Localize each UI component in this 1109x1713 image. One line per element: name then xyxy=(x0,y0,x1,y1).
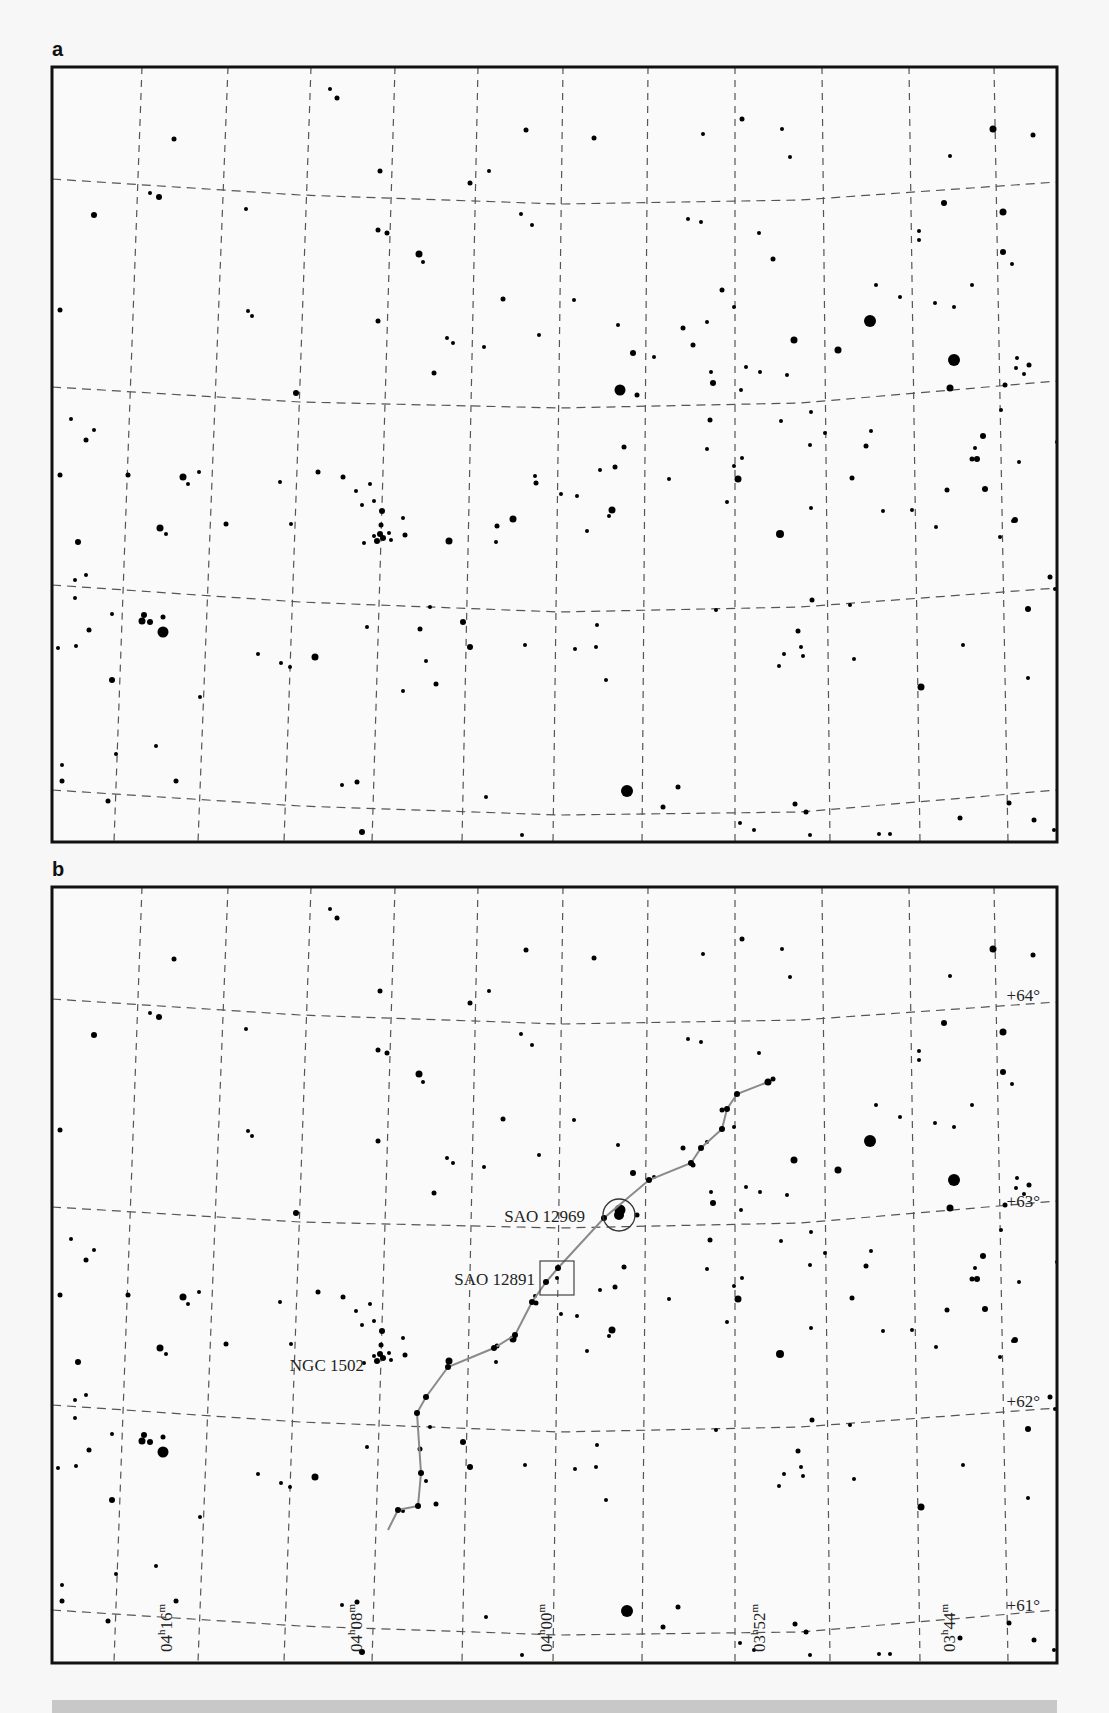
star xyxy=(917,238,921,242)
star xyxy=(374,538,380,544)
star xyxy=(808,443,812,447)
star xyxy=(1022,372,1026,376)
star xyxy=(484,795,488,799)
star xyxy=(250,1134,254,1138)
star xyxy=(534,481,539,486)
star xyxy=(1010,1082,1014,1086)
star xyxy=(164,532,168,536)
star xyxy=(379,1343,384,1348)
star xyxy=(510,516,517,523)
star xyxy=(918,684,925,691)
path-star xyxy=(395,1507,401,1513)
star xyxy=(874,283,878,287)
star xyxy=(1027,363,1032,368)
star xyxy=(376,319,381,324)
star xyxy=(998,1355,1002,1359)
star xyxy=(75,539,81,545)
star xyxy=(1007,1621,1012,1626)
star xyxy=(793,1622,798,1627)
star xyxy=(164,1352,168,1356)
star xyxy=(823,431,827,435)
star xyxy=(537,333,541,337)
star xyxy=(161,1435,166,1440)
star xyxy=(796,1449,801,1454)
star xyxy=(379,508,385,514)
star xyxy=(788,155,792,159)
star xyxy=(380,1355,386,1361)
star xyxy=(378,989,383,994)
star xyxy=(980,1253,986,1259)
star xyxy=(354,1309,358,1313)
path-star xyxy=(414,1410,420,1416)
star xyxy=(293,1210,299,1216)
star xyxy=(958,816,963,821)
star xyxy=(56,1466,60,1470)
star xyxy=(109,1497,115,1503)
star xyxy=(877,832,881,836)
star xyxy=(948,154,952,158)
star xyxy=(1012,517,1018,523)
star xyxy=(941,1020,947,1026)
star xyxy=(368,482,372,486)
star xyxy=(451,341,455,345)
star xyxy=(808,1263,812,1267)
star xyxy=(739,388,743,392)
star xyxy=(864,1264,869,1269)
star xyxy=(616,1143,620,1147)
star xyxy=(823,1251,827,1255)
chart-area xyxy=(52,67,1057,842)
star xyxy=(180,1294,187,1301)
star xyxy=(758,370,762,374)
star xyxy=(157,525,164,532)
star xyxy=(1025,1426,1031,1432)
star xyxy=(1027,1183,1032,1188)
star xyxy=(523,1463,527,1467)
star xyxy=(418,627,423,632)
star xyxy=(482,1165,486,1169)
star xyxy=(467,644,473,650)
star xyxy=(676,1605,681,1610)
star xyxy=(850,1296,855,1301)
star xyxy=(1026,676,1030,680)
star xyxy=(917,1049,921,1053)
star xyxy=(808,833,812,837)
star xyxy=(537,1153,541,1157)
star xyxy=(621,785,633,797)
star xyxy=(74,644,78,648)
star xyxy=(705,320,709,324)
star xyxy=(701,952,705,956)
star xyxy=(735,476,742,483)
star xyxy=(934,525,938,529)
star xyxy=(335,96,340,101)
star xyxy=(999,1228,1003,1232)
star xyxy=(1048,575,1053,580)
star xyxy=(73,578,77,582)
star xyxy=(387,531,391,535)
star xyxy=(312,654,319,661)
star xyxy=(616,323,620,327)
star xyxy=(614,1210,624,1220)
star xyxy=(559,1312,563,1316)
star xyxy=(389,538,393,542)
star xyxy=(359,829,365,835)
star xyxy=(174,1599,179,1604)
star xyxy=(520,1653,524,1657)
star xyxy=(708,418,713,423)
star xyxy=(279,1481,283,1485)
star xyxy=(947,1205,954,1212)
star xyxy=(948,1174,960,1186)
star xyxy=(714,1428,718,1432)
star xyxy=(758,1190,762,1194)
star xyxy=(852,1477,856,1481)
star xyxy=(256,1472,260,1476)
star xyxy=(421,1080,425,1084)
star xyxy=(114,1572,118,1576)
star xyxy=(446,1358,453,1365)
star xyxy=(147,619,153,625)
star xyxy=(197,470,201,474)
star xyxy=(451,1161,455,1165)
star xyxy=(585,529,589,533)
star xyxy=(874,1103,878,1107)
star xyxy=(720,288,725,293)
star xyxy=(482,345,486,349)
